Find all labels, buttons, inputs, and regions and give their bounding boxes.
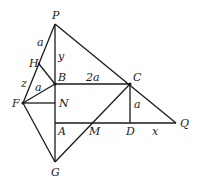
segment-FG	[23, 103, 55, 162]
label-D: D	[125, 125, 135, 138]
label-B: B	[57, 71, 66, 84]
label-P: P	[51, 9, 60, 22]
segment-label-PH: a	[37, 36, 44, 49]
label-G: G	[51, 166, 60, 179]
point-F-dot	[21, 101, 24, 104]
segment-label-PB: y	[57, 50, 65, 63]
segment-label-DQ: x	[152, 125, 159, 138]
label-M: M	[88, 125, 101, 138]
segment-label-HF: z	[20, 77, 27, 90]
point-B-dot	[53, 82, 56, 85]
label-Q: Q	[180, 117, 189, 130]
point-C-dot	[128, 82, 131, 85]
segment-PQ	[55, 24, 176, 123]
segment-label-BC: 2a	[85, 71, 100, 84]
label-C: C	[133, 71, 142, 84]
segment-label-FB: a	[35, 81, 42, 94]
label-H: H	[28, 57, 39, 70]
geometry-diagram: P H B C F N A M D Q G a y z a 2a a x	[0, 0, 198, 184]
label-N: N	[58, 97, 69, 110]
segment-label-CD: a	[134, 98, 141, 111]
label-A: A	[57, 125, 66, 138]
label-F: F	[11, 97, 20, 110]
